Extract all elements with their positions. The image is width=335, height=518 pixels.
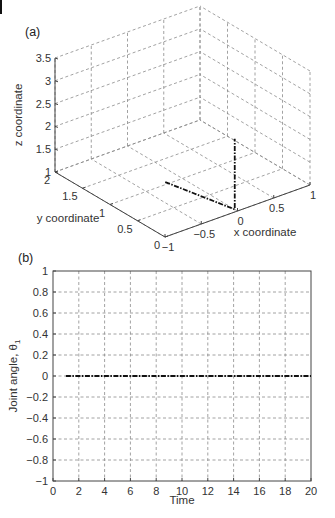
y-tick-label: 0.4 xyxy=(33,328,48,340)
y-tick-label: 1 xyxy=(99,207,105,219)
grid-backwall-z xyxy=(55,74,200,126)
x-tick-label: 8 xyxy=(153,485,159,497)
y-tick-label: −0.6 xyxy=(26,433,48,445)
x-tick-label: 0 xyxy=(50,485,56,497)
y-tick-label: 1.5 xyxy=(62,190,77,202)
plot-b: (b) 02468101214161820−1−0.8−0.6−0.4−0.20… xyxy=(7,251,317,506)
y-tick-label: 0 xyxy=(154,239,160,251)
x-tick-label: 12 xyxy=(202,485,214,497)
plot-b-ylabel: Joint angle, θ1 xyxy=(7,339,22,412)
z-tick-label: 3.5 xyxy=(36,52,51,64)
panel-a-label: (a) xyxy=(25,25,40,39)
y-tick-mark xyxy=(138,220,141,221)
y-tick-label: 0.8 xyxy=(33,286,48,298)
y-tick-label: 1 xyxy=(42,265,48,277)
x-tick-label: 1 xyxy=(310,189,316,201)
x-tick-label: 6 xyxy=(127,485,133,497)
y-tick-label: −0.4 xyxy=(26,412,48,424)
y-tick-label: 0.2 xyxy=(33,349,48,361)
panel-b-label: (b) xyxy=(18,251,33,265)
grid-floor-y xyxy=(83,136,228,188)
y-tick-mark xyxy=(110,204,113,205)
grid-floor-y xyxy=(138,169,283,221)
plot-b-xlabel: Time xyxy=(169,494,194,506)
x-tick-label: 20 xyxy=(305,485,317,497)
x-tick-label: 16 xyxy=(253,485,265,497)
y-tick-label: −1 xyxy=(35,475,48,487)
plot-b-ylabel-text: Joint angle, θ xyxy=(7,344,19,412)
grid-floor-y xyxy=(110,153,255,205)
y-tick-label: 0 xyxy=(42,370,48,382)
plot-a-ylabel: y coordinate xyxy=(37,212,100,224)
z-tick-mark xyxy=(55,172,58,173)
page-mark xyxy=(0,0,2,14)
z-tick-label: 1 xyxy=(45,166,51,178)
x-tick-label: −0.5 xyxy=(193,228,215,240)
y-tick-mark xyxy=(83,187,86,188)
y-tick-label: −0.8 xyxy=(26,454,48,466)
figure: (a) −1−0.500.5100.511.5211.522.533.5 z c… xyxy=(0,0,335,518)
plot-a-3d: (a) −1−0.500.5100.511.5211.522.533.5 z c… xyxy=(12,6,316,253)
x-tick-label: 18 xyxy=(279,485,291,497)
x-tick-label: 14 xyxy=(227,485,239,497)
y-tick-label: −0.2 xyxy=(26,391,48,403)
plot-a-xlabel: x coordinate xyxy=(234,226,297,238)
y-tick-label: 0.5 xyxy=(117,223,132,235)
plot-b-ticks: 02468101214161820−1−0.8−0.6−0.4−0.200.20… xyxy=(26,265,317,497)
grid-sidewall-z xyxy=(200,6,310,71)
x-tick-label: −1 xyxy=(162,241,175,253)
z-tick-label: 3 xyxy=(45,75,51,87)
z-tick-label: 1.5 xyxy=(36,143,51,155)
x-tick-label: 4 xyxy=(102,485,108,497)
y-tick-label: 0.6 xyxy=(33,307,48,319)
plot-a-zlabel: z coordinate xyxy=(12,84,24,147)
z-tick-label: 2.5 xyxy=(36,98,51,110)
x-tick-label: 0.5 xyxy=(269,202,284,214)
z-tick-label: 2 xyxy=(45,120,51,132)
x-tick-label: 2 xyxy=(76,485,82,497)
plot-b-ylabel-sub: 1 xyxy=(13,339,22,344)
